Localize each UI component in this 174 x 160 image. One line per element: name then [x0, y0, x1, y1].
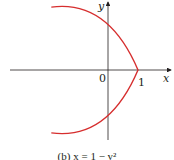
y-axis-label: y	[97, 0, 105, 13]
x-tick-1-label: 1	[138, 76, 145, 89]
x-axis-label: x	[163, 72, 170, 85]
origin-label: 0	[99, 72, 106, 85]
parabola-chart: y x 0 1	[0, 0, 174, 160]
figure-caption: (b) x = 1 − y²	[0, 150, 174, 160]
